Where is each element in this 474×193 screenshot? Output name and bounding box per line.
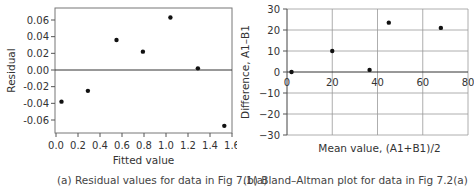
data-point: [330, 49, 334, 53]
x-tick-label: 0.2: [70, 140, 86, 151]
x-axis-label: Fitted value: [113, 154, 175, 166]
data-point: [141, 49, 145, 53]
y-tick-label: 0.04: [27, 31, 49, 42]
y-tick-label: −10: [259, 88, 280, 99]
bland-altman-plot-panel: 3020100−10−20−30020406080Mean value, (A1…: [237, 0, 474, 193]
x-tick-label: 1.4: [202, 140, 218, 151]
y-axis-label: Residual: [5, 48, 17, 92]
y-tick-label: 30: [267, 4, 280, 15]
data-point: [367, 68, 371, 72]
residual-plot-caption: (a) Residual values for data in Fig 7.1(…: [57, 174, 267, 186]
x-tick-label: 40: [371, 77, 384, 88]
x-tick-label: 80: [462, 77, 474, 88]
residual-plot: 0.060.040.020.00-0.02-0.04-0.060.00.20.4…: [0, 0, 237, 193]
data-point: [439, 26, 443, 30]
data-point: [222, 124, 226, 128]
x-tick-label: 0.8: [136, 140, 152, 151]
x-tick-label: 1.6: [224, 140, 237, 151]
y-tick-label: 0: [274, 67, 280, 78]
residual-plot-panel: 0.060.040.020.00-0.02-0.04-0.060.00.20.4…: [0, 0, 237, 193]
data-point: [59, 99, 63, 103]
y-tick-label: -0.02: [23, 81, 49, 92]
y-tick-label: 0.00: [27, 65, 49, 76]
y-tick-label: 0.06: [27, 15, 49, 26]
y-tick-label: −30: [259, 130, 280, 141]
y-tick-label: 10: [267, 46, 280, 57]
bland-altman-plot-caption: (b) Bland–Altman plot for data in Fig 7.…: [243, 174, 468, 186]
y-tick-label: -0.04: [23, 98, 49, 109]
x-tick-label: 60: [416, 77, 429, 88]
data-point: [86, 89, 90, 93]
data-point: [387, 20, 391, 24]
data-point: [114, 38, 118, 42]
x-tick-label: 0.0: [48, 140, 64, 151]
y-tick-label: 20: [267, 25, 280, 36]
data-point: [289, 70, 293, 74]
x-tick-label: 0.4: [92, 140, 108, 151]
data-point: [196, 66, 200, 70]
y-tick-label: -0.06: [23, 115, 49, 126]
x-axis-label: Mean value, (A1+B1)/2: [318, 142, 440, 154]
x-tick-label: 1.0: [158, 140, 174, 151]
y-tick-label: −20: [259, 109, 280, 120]
bland-altman-plot: 3020100−10−20−30020406080Mean value, (A1…: [237, 0, 474, 193]
x-tick-label: 20: [326, 77, 339, 88]
x-tick-label: 0: [284, 77, 290, 88]
y-axis-label: Difference, A1–B1: [239, 25, 251, 119]
x-tick-label: 1.2: [180, 140, 196, 151]
x-tick-label: 0.6: [114, 140, 130, 151]
data-point: [168, 15, 172, 19]
y-tick-label: 0.02: [27, 48, 49, 59]
